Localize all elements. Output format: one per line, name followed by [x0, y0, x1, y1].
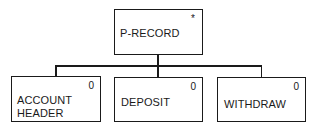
iteration-marker: *	[191, 14, 195, 24]
child-stem-2	[157, 65, 159, 77]
node-label: WITHDRAW	[224, 98, 286, 111]
child-node-withdraw: 0 WITHDRAW	[217, 77, 306, 122]
child-node-deposit: 0 DEPOSIT	[114, 77, 203, 122]
child-node-account-header: 0 ACCOUNT HEADER	[11, 76, 101, 122]
sibling-bar	[55, 65, 262, 67]
node-label-line-1: ACCOUNT	[17, 94, 72, 107]
node-label: DEPOSIT	[121, 96, 170, 109]
node-label: P-RECORD	[120, 27, 179, 40]
child-stem-3	[261, 65, 263, 77]
node-label-line-2: HEADER	[17, 107, 63, 120]
selection-marker: 0	[88, 81, 94, 91]
selection-marker: 0	[293, 82, 299, 92]
root-node-p-record: * P-RECORD	[114, 9, 203, 55]
selection-marker: 0	[190, 82, 196, 92]
